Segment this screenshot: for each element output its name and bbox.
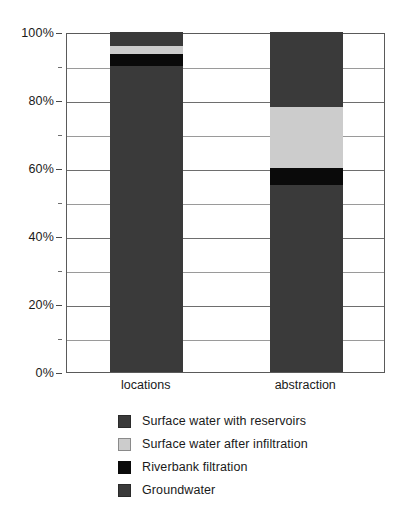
y-tick-mark-minor	[58, 203, 62, 204]
bar-locations	[110, 32, 183, 372]
legend-item: Riverbank filtration	[118, 460, 308, 474]
y-tick-label: 80%	[28, 95, 54, 107]
bar-segment	[110, 46, 183, 55]
bar-abstraction	[270, 32, 343, 372]
y-tick-mark-minor	[58, 339, 62, 340]
y-tick-mark-minor	[58, 67, 62, 68]
x-tick-label: abstraction	[275, 378, 336, 392]
bar-segment	[270, 32, 343, 107]
bar-segment	[110, 32, 183, 46]
y-tick-mark-minor	[58, 135, 62, 136]
y-tick-label: 100%	[21, 27, 54, 39]
bar-segment	[270, 185, 343, 372]
y-tick-mark	[56, 305, 62, 306]
x-axis: locationsabstraction	[66, 378, 385, 396]
legend-label: Riverbank filtration	[142, 460, 248, 474]
y-tick-mark-minor	[58, 271, 62, 272]
x-tick-label: locations	[121, 378, 170, 392]
legend-swatch-icon	[118, 415, 131, 428]
legend-item: Surface water after infiltration	[118, 437, 308, 451]
y-tick-mark	[56, 101, 62, 102]
y-tick-mark	[56, 237, 62, 238]
plot-area	[66, 33, 385, 373]
bar-segment	[110, 54, 183, 66]
y-tick-mark	[56, 33, 62, 34]
y-tick-mark	[56, 373, 62, 374]
legend-item: Surface water with reservoirs	[118, 414, 308, 428]
legend-swatch-icon	[118, 461, 131, 474]
legend-swatch-icon	[118, 438, 131, 451]
legend-item: Groundwater	[118, 483, 308, 497]
y-tick-mark	[56, 169, 62, 170]
y-axis: 100%80%60%40%20%0%	[0, 33, 62, 373]
bar-segment	[110, 66, 183, 372]
stacked-bar-chart: 100%80%60%40%20%0% locationsabstraction …	[0, 0, 407, 521]
legend-swatch-icon	[118, 484, 131, 497]
y-tick-label: 40%	[28, 231, 54, 243]
bar-segment	[270, 168, 343, 185]
legend-label: Surface water with reservoirs	[142, 414, 306, 428]
legend-label: Groundwater	[142, 483, 215, 497]
legend-label: Surface water after infiltration	[142, 437, 308, 451]
y-tick-label: 60%	[28, 163, 54, 175]
y-tick-label: 20%	[28, 299, 54, 311]
chart-legend: Surface water with reservoirsSurface wat…	[118, 414, 308, 497]
bar-segment	[270, 107, 343, 168]
y-tick-label: 0%	[36, 367, 54, 379]
